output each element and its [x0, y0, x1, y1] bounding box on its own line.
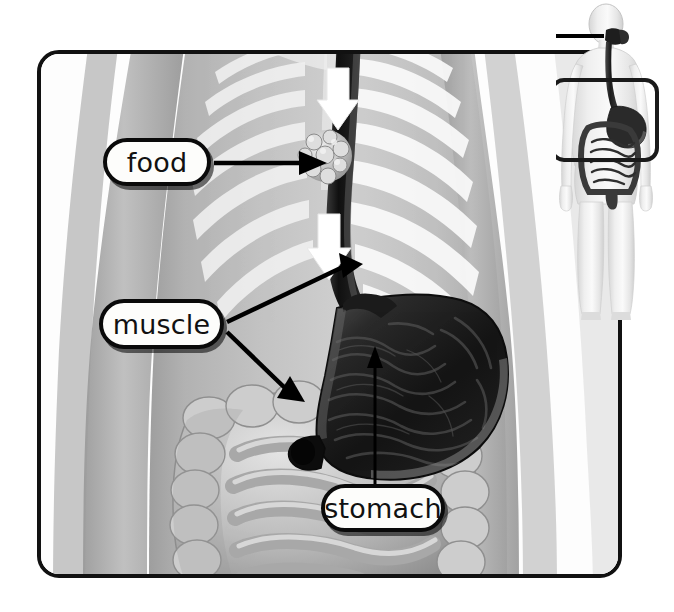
label-muscle-text: muscle: [113, 311, 211, 338]
illustration-canvas: food muscle stomach: [0, 0, 674, 612]
label-food-text: food: [127, 149, 187, 176]
label-stomach-text: stomach: [324, 495, 441, 522]
label-stomach[interactable]: stomach: [321, 484, 445, 532]
body-figure-graphic: [556, 2, 674, 322]
label-muscle[interactable]: muscle: [99, 299, 224, 349]
label-food[interactable]: food: [103, 138, 211, 186]
body-overview-inset: [556, 2, 674, 322]
